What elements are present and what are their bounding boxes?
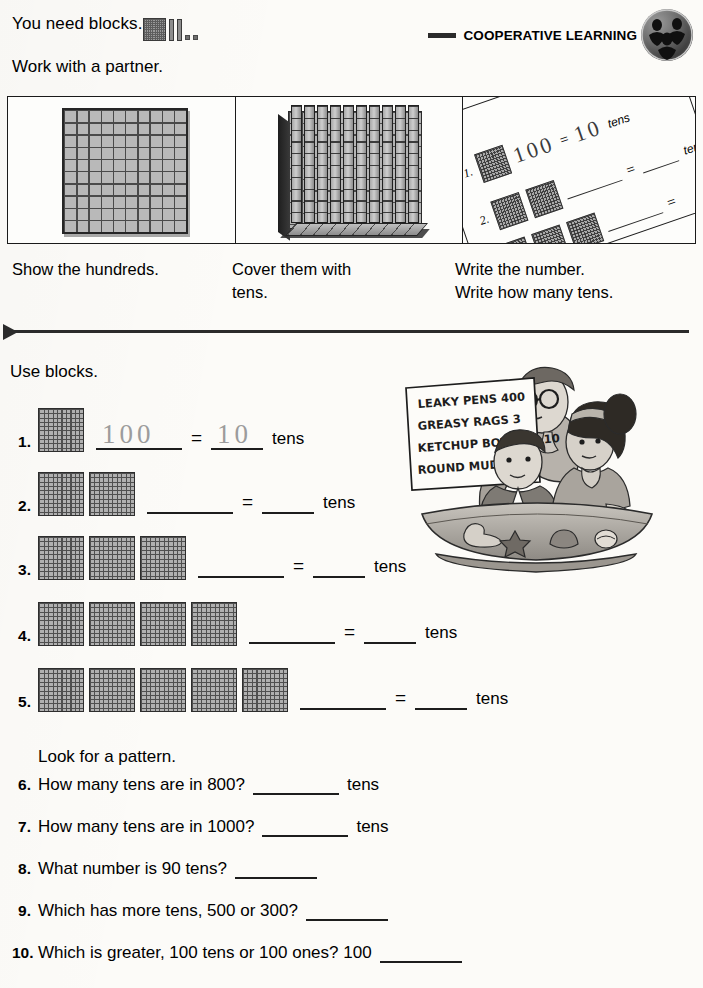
tens-rods-group [291, 105, 419, 223]
tens-label: tens [476, 689, 508, 710]
answer-blank-number[interactable]: 100 [96, 428, 182, 450]
hundreds-block [38, 668, 84, 712]
answer-blank-number[interactable] [249, 622, 335, 644]
question-answer-blank[interactable] [306, 901, 388, 921]
hundreds-block [38, 408, 84, 452]
look-for-pattern-heading: Look for a pattern. [38, 747, 176, 767]
tens-rod [395, 105, 406, 223]
panel-show-hundreds [8, 97, 236, 243]
exercise-row-3: 3. = tens [12, 534, 406, 580]
exercise-answer: = tens [288, 687, 508, 712]
use-blocks-heading: Use blocks. [10, 362, 98, 382]
tens-label: tens [323, 493, 355, 514]
answer-blank-tens[interactable] [415, 688, 467, 710]
cooperative-learning-badge-icon [641, 9, 693, 61]
tilted-blank [603, 198, 663, 232]
hundreds-block [89, 472, 135, 516]
answer-blank-tens[interactable] [313, 556, 365, 578]
ones-unit-icon [193, 35, 198, 40]
question-tail-label: tens [347, 775, 379, 795]
traced-tens: 10 [217, 422, 252, 447]
answer-blank-tens[interactable] [364, 622, 416, 644]
question-tail-label: tens [356, 817, 388, 837]
answer-blank-number[interactable] [300, 688, 386, 710]
demo-panels: 1. 100 = 10 tens 2. = tens [7, 96, 696, 244]
hundreds-flat-icon [143, 18, 166, 41]
tilted-equals: = [624, 160, 638, 179]
hundreds-block [191, 602, 237, 646]
panel-caption-2-line1: Cover them with [232, 258, 422, 281]
question-answer-blank[interactable] [253, 775, 339, 795]
tens-label: tens [272, 429, 304, 450]
panel-caption-2-line2: tens. [232, 281, 422, 304]
tens-rod [343, 105, 354, 223]
tilted-tens-label: tens [682, 137, 695, 158]
hundreds-block [38, 472, 84, 516]
banner-dash-icon [428, 33, 456, 38]
equals-sign: = [395, 687, 406, 710]
question-number: 6. [12, 776, 38, 795]
exercise-answer: = tens [135, 491, 355, 516]
exercise-blocks [38, 408, 84, 452]
exercise-number: 2. [12, 497, 38, 516]
question-text: Which is greater, 100 tens or 100 ones? … [38, 943, 372, 963]
work-with-partner-text: Work with a partner. [12, 57, 163, 77]
question-text: How many tens are in 1000? [38, 817, 254, 837]
tilted-row-number: 2. [478, 211, 491, 228]
block-left-face [278, 114, 290, 241]
exercise-answer: 100 = 10 tens [84, 427, 304, 452]
question-row-9: 9. Which has more tens, 500 or 300? [12, 901, 396, 921]
tens-rod [304, 105, 315, 223]
tilted-blank [563, 165, 623, 199]
answer-blank-tens[interactable]: 10 [211, 428, 263, 450]
panel-caption-3-line2: Write how many tens. [455, 281, 685, 304]
table [422, 503, 652, 572]
question-row-10: 10. Which is greater, 100 tens or 100 on… [12, 943, 470, 963]
exercise-answer: = tens [237, 621, 457, 646]
panel-write-the-number: 1. 100 = 10 tens 2. = tens [463, 97, 695, 243]
hundreds-block [89, 668, 135, 712]
tens-rod [291, 105, 302, 223]
panel-caption-3: Write the number. Write how many tens. [455, 258, 685, 304]
question-number: 8. [12, 860, 38, 879]
three-students-with-sign-illustration: LEAKY PENS 400 GREASY RAGS 3 KETCHUP BOT… [392, 356, 692, 588]
exercise-blocks [38, 602, 237, 646]
cooperative-learning-banner: COOPERATIVE LEARNING [428, 8, 693, 62]
equals-sign: = [191, 427, 202, 450]
question-answer-blank[interactable] [380, 943, 462, 963]
question-text: How many tens are in 800? [38, 775, 245, 795]
answer-blank-number[interactable] [147, 492, 233, 514]
panel-caption-3-line1: Write the number. [455, 258, 685, 281]
hundreds-flat-block [62, 108, 188, 234]
tilted-row-number: 1. [463, 164, 475, 181]
tilted-tens-label: tens [606, 110, 632, 131]
question-number: 10. [12, 944, 38, 963]
tilted-hundreds-block [474, 145, 512, 183]
hundreds-block [89, 536, 135, 580]
exercise-number: 3. [12, 561, 38, 580]
question-number: 7. [12, 818, 38, 837]
tens-rod [356, 105, 367, 223]
exercise-answer: = tens [186, 555, 406, 580]
equals-sign: = [293, 555, 304, 578]
question-answer-blank[interactable] [235, 859, 317, 879]
tilted-hundreds-block [496, 237, 534, 243]
answer-blank-tens[interactable] [262, 492, 314, 514]
tilted-blank [639, 146, 680, 173]
answer-blank-number[interactable] [198, 556, 284, 578]
hundreds-block [140, 536, 186, 580]
tilted-equals: = [665, 192, 679, 211]
equals-sign: = [344, 621, 355, 644]
tens-rod-icon [169, 19, 174, 41]
question-row-8: 8. What number is 90 tens? [12, 859, 325, 879]
tens-label: tens [425, 623, 457, 644]
exercise-blocks [38, 472, 135, 516]
exercise-number: 4. [12, 627, 38, 646]
tens-rod [317, 105, 328, 223]
exercise-blocks [38, 536, 186, 580]
tens-covering-flat [278, 105, 438, 237]
section-divider [7, 330, 689, 333]
exercise-row-4: 4. = tens [12, 600, 457, 646]
tens-rod [330, 105, 341, 223]
question-answer-blank[interactable] [262, 817, 348, 837]
